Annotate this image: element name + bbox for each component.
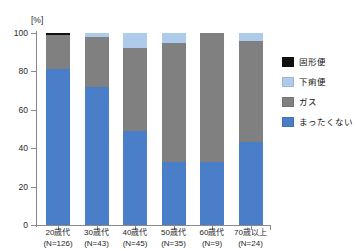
legend-swatch-icon	[282, 57, 294, 67]
legend-swatch-icon	[282, 97, 294, 107]
bar-stack[interactable]	[239, 33, 263, 225]
bar-stack[interactable]	[162, 33, 186, 225]
bar-segment[interactable]	[162, 33, 186, 43]
bar-segment[interactable]	[85, 37, 109, 87]
x-label-sample-size: (N=24)	[223, 239, 279, 250]
legend-item[interactable]: 固形便	[282, 55, 352, 68]
bar-segment[interactable]	[239, 142, 263, 225]
bar-segment[interactable]	[200, 162, 224, 225]
y-tick-mark	[31, 187, 37, 188]
y-tick-mark	[31, 148, 37, 149]
y-tick-mark	[31, 110, 37, 111]
y-tick-label: 0	[0, 221, 28, 230]
bar-segment[interactable]	[162, 162, 186, 225]
bar-segment[interactable]	[46, 35, 70, 70]
bar-segment[interactable]	[239, 33, 263, 41]
legend-label: 下痢便	[299, 77, 326, 87]
chart-legend: 固形便下痢便ガスまったくない	[282, 55, 352, 135]
bar-stack[interactable]	[85, 33, 109, 225]
bar-segment[interactable]	[85, 87, 109, 225]
y-tick-mark	[31, 225, 37, 226]
x-label-age-group: 70歳以上	[223, 228, 279, 239]
legend-swatch-icon	[282, 77, 294, 87]
y-tick-label: 60	[0, 106, 28, 115]
legend-item[interactable]: まったくない	[282, 115, 352, 128]
bar-segment[interactable]	[123, 48, 147, 131]
x-axis-line	[36, 225, 270, 226]
legend-label: まったくない	[299, 117, 353, 127]
x-axis-category-label: 70歳以上(N=24)	[223, 228, 279, 249]
y-tick-mark	[31, 33, 37, 34]
legend-item[interactable]: 下痢便	[282, 75, 352, 88]
bar-segment[interactable]	[123, 33, 147, 48]
legend-label: ガス	[299, 97, 317, 107]
y-tick-label: 80	[0, 67, 28, 76]
bar-segment[interactable]	[46, 69, 70, 225]
bar-stack[interactable]	[200, 33, 224, 225]
y-axis-unit-label: [%]	[31, 15, 43, 25]
bar-segment[interactable]	[200, 33, 224, 162]
bar-stack[interactable]	[123, 33, 147, 225]
y-tick-mark	[31, 71, 37, 72]
y-tick-label: 100	[0, 29, 28, 38]
bar-segment[interactable]	[123, 131, 147, 225]
y-tick-label: 20	[0, 183, 28, 192]
bar-stack[interactable]	[46, 33, 70, 225]
legend-swatch-icon	[282, 117, 294, 127]
y-axis-line	[36, 31, 37, 227]
legend-item[interactable]: ガス	[282, 95, 352, 108]
bar-segment[interactable]	[162, 43, 186, 162]
y-tick-label: 40	[0, 144, 28, 153]
bar-segment[interactable]	[239, 41, 263, 143]
chart-root: [%] 020406080100 20歳代(N=126)30歳代(N=43)40…	[0, 0, 354, 251]
legend-label: 固形便	[299, 57, 326, 67]
